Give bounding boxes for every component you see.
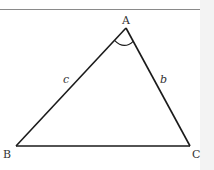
figure-page: A B C c b — [0, 0, 214, 170]
side-b-line — [126, 28, 190, 146]
vertex-label-b: B — [3, 148, 11, 161]
vertex-label-c: C — [192, 148, 200, 161]
side-label-b: b — [160, 73, 167, 86]
angle-a-arc-icon — [115, 40, 134, 45]
side-label-c: c — [63, 73, 69, 86]
triangle-diagram: A B C c b — [0, 0, 214, 170]
vertex-label-a: A — [121, 14, 131, 27]
side-c-line — [16, 28, 126, 146]
